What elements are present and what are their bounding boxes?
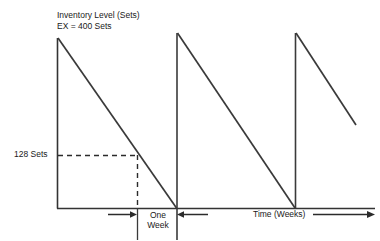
y-axis-title: Inventory Level (Sets) xyxy=(57,11,140,21)
period-label-line-2: Week xyxy=(141,221,175,231)
depletion-line-cycle-1 xyxy=(58,38,177,208)
order-quantity-note: EX = 400 Sets xyxy=(57,22,112,32)
period-label-one-week: One Week xyxy=(141,211,175,231)
arrow-right-icon xyxy=(367,211,375,218)
chart-canvas xyxy=(0,0,380,241)
depletion-line-cycle-2 xyxy=(178,33,296,208)
depletion-line-cycle-3 xyxy=(296,33,356,125)
y-tick-label-128-sets: 128 Sets xyxy=(14,150,48,160)
inventory-sawtooth-chart: Inventory Level (Sets) EX = 400 Sets 128… xyxy=(0,0,380,241)
arrow-left-icon xyxy=(177,211,184,217)
x-axis-title: Time (Weeks) xyxy=(253,210,305,220)
arrow-right-icon xyxy=(130,211,137,217)
